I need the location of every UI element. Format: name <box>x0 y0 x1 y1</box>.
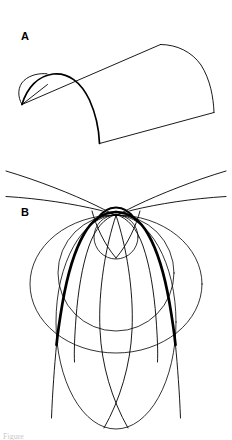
figure-caption: Figure <box>3 432 229 440</box>
figure-background <box>0 0 232 440</box>
panel-label-b: B <box>21 207 29 218</box>
figure-drawing <box>0 0 232 440</box>
figure-root: A B Figure <box>0 0 232 440</box>
panel-label-a: A <box>21 31 29 42</box>
